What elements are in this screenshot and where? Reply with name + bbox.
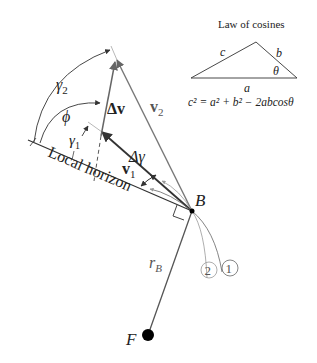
gamma1-arrow: [82, 126, 88, 136]
inset-label-a: a: [244, 81, 250, 95]
inset-title: Law of cosines: [218, 18, 285, 30]
inset-label-c: c: [220, 45, 226, 59]
inset-label-b: b: [276, 46, 282, 60]
label-rB: rB: [149, 254, 162, 274]
label-B: B: [195, 191, 206, 210]
inset-formula: c² = a² + b² − 2abcosθ: [188, 96, 294, 108]
label-delta-gamma: Δγ: [128, 148, 145, 166]
point-B: [190, 209, 195, 214]
label-v2: v2: [150, 98, 164, 118]
gamma2-arc: [34, 50, 110, 142]
v1-reference-line: [88, 122, 102, 132]
label-gamma2: γ2: [56, 76, 68, 96]
delta-v-vector: [101, 62, 115, 136]
label-delta-v: Δv: [107, 100, 125, 117]
delta-gamma-arrow-a: [141, 180, 148, 186]
orbit-2-label: 2: [205, 263, 212, 278]
label-gamma1: γ1: [69, 132, 80, 151]
focus-point-F: [142, 329, 154, 341]
orbit-1-label: 1: [226, 261, 233, 276]
gamma2-tick: [30, 138, 36, 146]
v2-reference-line: [111, 46, 117, 60]
law-of-cosines-inset: Law of cosines c b θ a c² = a² + b² − 2a…: [188, 18, 297, 108]
inset-label-theta: θ: [273, 64, 279, 78]
orbital-maneuver-diagram: 1 2 B F rB Local horizon v1 v2 Δv Δγ γ2 …: [0, 0, 317, 363]
label-phi: ϕ: [62, 108, 70, 126]
label-F: F: [125, 330, 137, 349]
